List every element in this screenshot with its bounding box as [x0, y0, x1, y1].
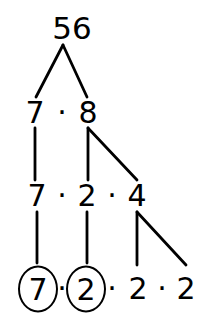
factor-tree-diagram: 56·78··724···7222: [0, 0, 205, 316]
factor-node: 7: [27, 181, 46, 211]
prime-factor-node-circled: 2: [66, 266, 106, 313]
factor-node: 2: [128, 274, 147, 304]
prime-factor-node-circled: 7: [18, 266, 58, 313]
branch-line: [36, 45, 63, 97]
branch-line: [63, 45, 87, 97]
factor-node: 7: [25, 98, 44, 128]
factor-node: 2: [176, 274, 195, 304]
branch-line: [88, 128, 137, 180]
factor-node: 2: [77, 181, 96, 211]
root-number-node: 56: [52, 13, 91, 44]
multiply-dot-icon: ·: [57, 181, 67, 211]
branch-line: [137, 212, 186, 265]
multiply-dot-icon: ·: [107, 274, 117, 304]
multiply-dot-icon: ·: [107, 181, 117, 211]
multiply-dot-icon: ·: [157, 274, 167, 304]
factor-node: 8: [78, 98, 97, 128]
multiply-dot-icon: ·: [57, 98, 67, 128]
factor-node: 4: [127, 181, 146, 211]
